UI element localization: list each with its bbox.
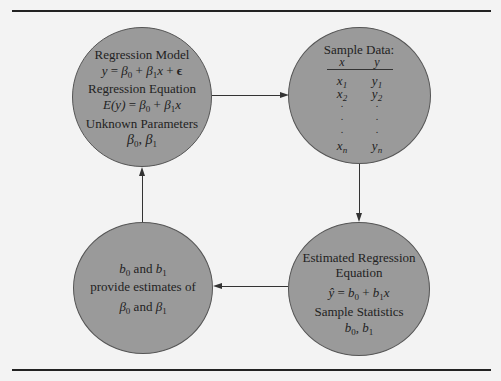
sample-data-header-rule bbox=[327, 69, 393, 70]
arrow-down-head-icon bbox=[356, 213, 362, 222]
regression-equation: E(y) = β0 + β1x bbox=[103, 98, 181, 111]
sample-statistics: b0, b1 bbox=[345, 321, 374, 334]
sample-data-ellipsis-y2: . bbox=[376, 112, 379, 122]
arrow-up-line bbox=[142, 175, 143, 222]
top-rule bbox=[12, 10, 491, 12]
estimated-regression-equation: ŷ = b0 + b1x bbox=[328, 286, 389, 299]
regression-model-equation: y = β0 + β1x + ϵ bbox=[102, 64, 183, 77]
sample-data-title: Sample Data: bbox=[324, 43, 394, 56]
estimates-line3: β0 and β1 bbox=[119, 300, 166, 313]
sample-data-yn: yn bbox=[372, 139, 382, 152]
regression-equation-title: Regression Equation bbox=[88, 82, 196, 95]
estimated-regression-title1: Estimated Regression bbox=[302, 251, 415, 264]
unknown-parameters-title: Unknown Parameters bbox=[86, 117, 198, 130]
arrow-left-head-icon bbox=[213, 283, 222, 289]
arrow-down-line bbox=[359, 164, 360, 216]
sample-data-header-x: x bbox=[339, 56, 344, 68]
sample-data-header-y: y bbox=[374, 56, 379, 68]
sample-data-ellipsis-y3: . bbox=[376, 125, 379, 135]
estimates-line2: provide estimates of bbox=[90, 280, 195, 293]
unknown-parameters: β0, β1 bbox=[127, 133, 157, 147]
sample-data-ellipsis-y1: . bbox=[376, 99, 379, 109]
regression-model-title: Regression Model bbox=[95, 48, 190, 61]
sample-data-ellipsis-x1: . bbox=[341, 99, 344, 109]
sample-data-ellipsis-x2: . bbox=[341, 112, 344, 122]
arrow-left-line bbox=[220, 286, 288, 287]
estimated-regression-title2: Equation bbox=[336, 266, 383, 279]
arrow-right-head-icon bbox=[280, 92, 289, 98]
sample-data-ellipsis-x3: . bbox=[341, 125, 344, 135]
arrow-right-line bbox=[212, 95, 282, 96]
estimates-line1: b0 and b1 bbox=[119, 262, 166, 275]
sample-data-xn: xn bbox=[337, 139, 347, 152]
bottom-rule bbox=[12, 369, 491, 371]
sample-statistics-title: Sample Statistics bbox=[314, 305, 403, 318]
arrow-up-head-icon bbox=[139, 167, 145, 176]
